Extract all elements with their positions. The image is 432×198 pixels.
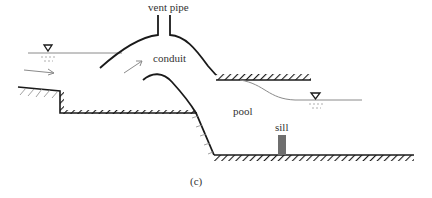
upstream-channel-bed (18, 87, 197, 114)
upper-slab (216, 74, 311, 80)
upstream-water (28, 45, 122, 61)
label-conduit: conduit (153, 52, 186, 64)
label-pool: pool (233, 105, 253, 117)
label-sill: sill (275, 121, 288, 133)
drop-structure-diagram: vent pipe conduit pool sill (c) (0, 0, 432, 198)
conduit-top-wall (100, 15, 216, 75)
pool-floor (214, 155, 414, 161)
conduit-bottom-wall (143, 74, 214, 155)
figure-caption: (c) (190, 175, 203, 188)
label-vent-pipe: vent pipe (148, 1, 189, 13)
sill-block (278, 135, 286, 155)
downstream-water (240, 80, 362, 108)
water-level-triangle-icon (311, 93, 320, 99)
flow-arrow-icon (124, 61, 142, 73)
flow-arrow-icon (24, 69, 54, 75)
water-level-triangle-icon (44, 45, 52, 51)
